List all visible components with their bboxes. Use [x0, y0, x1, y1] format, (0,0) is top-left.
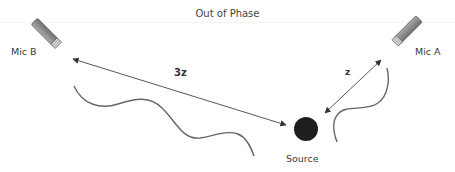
distance-label-z: z — [345, 68, 350, 77]
source-label: Source — [286, 154, 319, 164]
source-icon — [294, 117, 318, 141]
mic-b-icon — [31, 18, 61, 48]
mic-a-icon — [392, 16, 422, 46]
mic-b-label: Mic B — [11, 47, 37, 57]
mic-a-label: Mic A — [415, 47, 441, 57]
distance-label-3z: 3z — [174, 68, 187, 78]
diagram-graphics — [0, 0, 455, 172]
sound-wave-left — [74, 86, 254, 156]
out-of-phase-diagram: Out of Phase — [0, 0, 455, 172]
